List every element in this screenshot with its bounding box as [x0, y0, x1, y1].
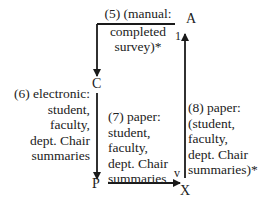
edge-7-line-4: dept. Chair: [108, 156, 168, 172]
edge-8-label: (8) paper: (student, faculty, dept. Chai…: [188, 100, 258, 178]
edge-7-line-3: faculty,: [108, 140, 168, 156]
edge-7-line-1: (7) paper:: [108, 109, 168, 125]
edge-6-line-4: dept. Chair: [0, 133, 90, 149]
edge-7-line-2: student,: [108, 125, 168, 141]
edge-8-line-1: (8) paper:: [188, 100, 258, 116]
edge-8-line-5: summaries)*: [188, 162, 258, 178]
edge-5-line-2: completed: [100, 24, 176, 40]
edge-8-line-4: dept. Chair: [188, 147, 258, 163]
edge-6-label: (6) electronic: student, faculty, dept. …: [0, 86, 90, 164]
edge-5-line-3: survey)*: [100, 39, 176, 55]
edge-6-line-3: faculty,: [0, 117, 90, 133]
edge-8-line-3: faculty,: [188, 131, 258, 147]
edge-6-line-1: (6) electronic:: [0, 86, 90, 102]
edge-7-label: (7) paper: student, faculty, dept. Chair…: [108, 109, 168, 187]
node-p: P: [92, 177, 100, 191]
edge-8-line-2: (student,: [188, 116, 258, 132]
node-x: X: [180, 184, 190, 198]
edge-5-line-1: (5) (manual:: [100, 6, 176, 22]
edge-5-label: (5) (manual: completed survey)*: [100, 6, 176, 55]
node-c: C: [92, 77, 101, 91]
edge-6-line-2: student,: [0, 102, 90, 118]
edge-7-line-5: summaries: [108, 171, 168, 187]
marker-v: v: [174, 167, 180, 179]
node-a: A: [186, 12, 196, 26]
edge-6-line-5: summaries: [0, 148, 90, 164]
